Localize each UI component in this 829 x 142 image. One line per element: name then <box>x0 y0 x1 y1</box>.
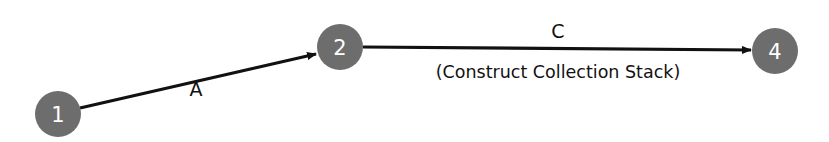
edge-c-arrow <box>363 47 751 50</box>
edge-c-description: (Construct Collection Stack) <box>436 62 681 82</box>
node-2: 2 <box>317 24 363 70</box>
node-1-label: 1 <box>51 103 64 127</box>
node-4: 4 <box>752 28 798 74</box>
edge-c-label: C <box>551 20 564 42</box>
activity-network-diagram: A C (Construct Collection Stack) 1 2 4 <box>0 0 829 142</box>
node-4-label: 4 <box>768 40 781 64</box>
edge-c: C (Construct Collection Stack) <box>363 20 751 82</box>
node-2-label: 2 <box>333 36 346 60</box>
edge-a: A <box>80 54 316 108</box>
node-1: 1 <box>35 91 81 137</box>
edge-a-label: A <box>190 78 203 100</box>
